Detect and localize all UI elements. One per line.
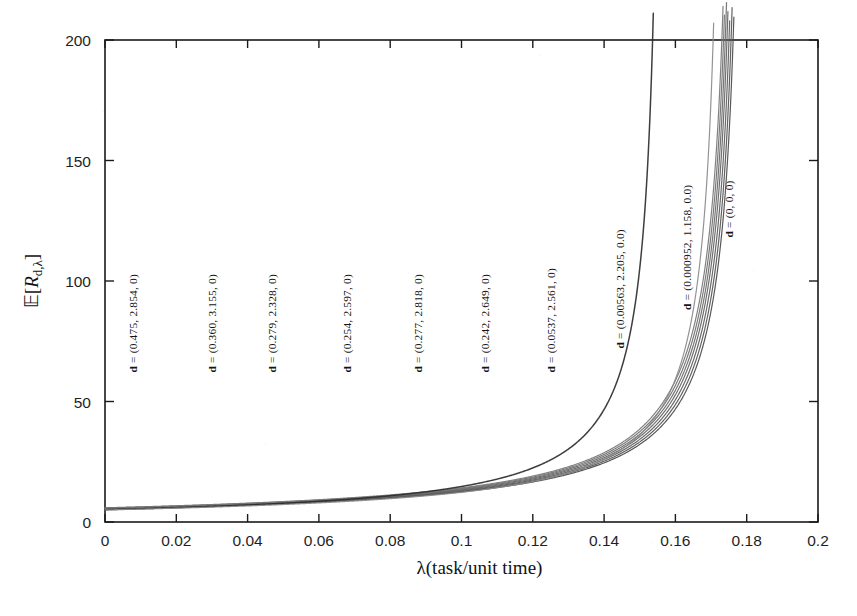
x-tick-labels: 00.020.040.060.080.10.120.140.160.180.2 xyxy=(101,532,829,549)
annotation-label-1: d = (0.360, 3.155, 0) xyxy=(206,274,219,373)
x-axis-title: λ(task/unit time) xyxy=(417,557,543,579)
annotation-value-6: = (0.0537, 2.561, 0) xyxy=(545,268,558,366)
annotation-value-8: = (0.000952, 1.158, 0.0) xyxy=(681,185,694,304)
annotation-label-8: d = (0.000952, 1.158, 0.0) xyxy=(681,185,694,310)
annotation-2: d = (0.279, 2.328, 0) xyxy=(266,274,279,373)
x-tick-label-1: 0.02 xyxy=(161,532,191,549)
annotation-6: d = (0.0537, 2.561, 0) xyxy=(545,268,558,373)
curve-2 xyxy=(105,21,730,509)
annotation-value-3: = (0.254, 2.597, 0) xyxy=(341,274,354,366)
bracket-close: ] xyxy=(21,254,42,260)
annotation-value-5: = (0.242, 2.649, 0) xyxy=(479,274,492,366)
annotation-1: d = (0.360, 3.155, 0) xyxy=(206,274,219,373)
annotation-label-6: d = (0.0537, 2.561, 0) xyxy=(545,268,558,373)
x-tick-label-0: 0 xyxy=(101,532,110,549)
annotation-0: d = (0.475, 2.854, 0) xyxy=(127,274,140,373)
curve-group xyxy=(105,3,734,510)
annotation-label-2: d = (0.279, 2.328, 0) xyxy=(266,274,279,373)
annotation-label-3: d = (0.254, 2.597, 0) xyxy=(341,274,354,373)
annotation-value-9: = (0, 0, 0) xyxy=(723,180,736,231)
annotation-5: d = (0.242, 2.649, 0) xyxy=(479,274,492,373)
annotation-label-5: d = (0.242, 2.649, 0) xyxy=(479,274,492,373)
x-tick-label-4: 0.08 xyxy=(375,532,405,549)
annotation-value-2: = (0.279, 2.328, 0) xyxy=(266,274,279,366)
curve-4 xyxy=(105,3,727,509)
y-tick-labels: 050100150200 xyxy=(65,32,91,531)
annotation-label-7: d = (0.00563, 2.205, 0.0) xyxy=(614,229,627,348)
annotation-value-4: = (0.277, 2.818, 0) xyxy=(412,274,425,366)
response-subscript: d,λ xyxy=(30,259,45,276)
annotation-value-0: = (0.475, 2.854, 0) xyxy=(127,274,140,366)
annotation-7: d = (0.00563, 2.205, 0.0) xyxy=(614,229,627,348)
y-tick-label-0: 0 xyxy=(82,514,91,531)
expectation-symbol: 𝔼 xyxy=(21,294,42,308)
x-tick-label-6: 0.12 xyxy=(518,532,548,549)
annotation-value-7: = (0.00563, 2.205, 0.0) xyxy=(614,229,627,342)
x-tick-label-10: 0.2 xyxy=(807,532,829,549)
curve-5 xyxy=(105,15,724,508)
x-tick-label-3: 0.06 xyxy=(304,532,334,549)
axis-titles: λ(task/unit time)𝔼[Rd,λ] xyxy=(21,254,542,579)
annotation-label-0: d = (0.475, 2.854, 0) xyxy=(127,274,140,373)
x-tick-label-9: 0.18 xyxy=(732,532,762,549)
y-tick-label-2: 100 xyxy=(65,273,91,290)
annotation-label-4: d = (0.277, 2.818, 0) xyxy=(412,274,425,373)
curve-6 xyxy=(105,6,723,507)
y-axis-title: 𝔼[Rd,λ] xyxy=(21,254,45,308)
y-tick-label-1: 50 xyxy=(74,394,92,411)
curve-7 xyxy=(105,13,653,510)
x-tick-label-7: 0.14 xyxy=(589,532,620,549)
response-symbol: R xyxy=(21,276,42,289)
annotation-3: d = (0.254, 2.597, 0) xyxy=(341,274,354,373)
y-axis-title-text: 𝔼[Rd,λ] xyxy=(21,254,45,308)
annotation-8: d = (0.000952, 1.158, 0.0) xyxy=(681,185,694,310)
chart-canvas: 00.020.040.060.080.10.120.140.160.180.2 … xyxy=(0,0,857,616)
annotation-4: d = (0.277, 2.818, 0) xyxy=(412,274,425,373)
annotation-label-9: d = (0, 0, 0) xyxy=(723,180,736,237)
y-tick-label-3: 150 xyxy=(65,153,91,170)
annotation-9: d = (0, 0, 0) xyxy=(723,180,736,237)
annotation-value-1: = (0.360, 3.155, 0) xyxy=(206,274,219,366)
x-tick-label-5: 0.1 xyxy=(451,532,473,549)
figure-container: 00.020.040.060.080.10.120.140.160.180.2 … xyxy=(0,0,857,616)
x-tick-label-2: 0.04 xyxy=(233,532,264,549)
x-tick-label-8: 0.16 xyxy=(660,532,690,549)
y-tick-label-4: 200 xyxy=(65,32,91,49)
